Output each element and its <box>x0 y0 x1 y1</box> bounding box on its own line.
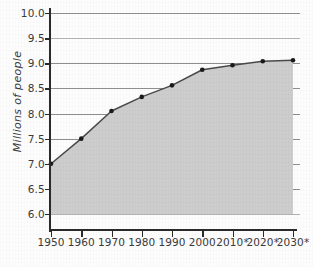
y-tick-9 <box>45 63 51 64</box>
data-point-marker <box>200 67 205 72</box>
population-series <box>51 13 300 214</box>
data-point-marker <box>79 136 84 141</box>
y-tick-6 <box>45 214 51 215</box>
y-tick-9-5 <box>45 38 51 39</box>
data-point-marker <box>139 95 144 100</box>
population-area-chart: 10.09.59.08.58.07.57.06.56.0 Millions of… <box>0 0 313 267</box>
y-tick-8-5 <box>45 88 51 89</box>
y-axis-line <box>49 8 51 232</box>
x-tick-label: 1970 <box>98 236 125 248</box>
data-point-marker <box>260 59 265 64</box>
x-tick-label: 1960 <box>68 236 95 248</box>
data-point-marker <box>109 109 114 114</box>
y-tick-6-5 <box>45 189 51 190</box>
plot-area <box>51 13 300 214</box>
y-tick-8 <box>45 114 51 115</box>
data-point-marker <box>291 58 296 63</box>
x-tick-label: 2010* <box>216 236 248 248</box>
x-tick-label: 1990 <box>158 236 185 248</box>
x-tick-label: 2000 <box>189 236 216 248</box>
x-tick-label: 1950 <box>37 236 64 248</box>
y-tick-10 <box>45 13 51 14</box>
x-axis-tick-labels: 1950196019701980199020002010*2020*2030* <box>0 236 313 256</box>
gridline-6 <box>51 214 300 215</box>
data-point-marker <box>170 83 175 88</box>
y-tick-7-5 <box>45 139 51 140</box>
y-axis-title-wrapper: Millions of people <box>0 0 40 230</box>
x-tick-label: 2030* <box>277 236 309 248</box>
x-tick-label: 1980 <box>128 236 155 248</box>
y-tick-7 <box>45 164 51 165</box>
x-tick-label: 2020* <box>247 236 279 248</box>
data-point-marker <box>230 63 235 68</box>
y-axis-title: Millions of people <box>11 32 24 172</box>
